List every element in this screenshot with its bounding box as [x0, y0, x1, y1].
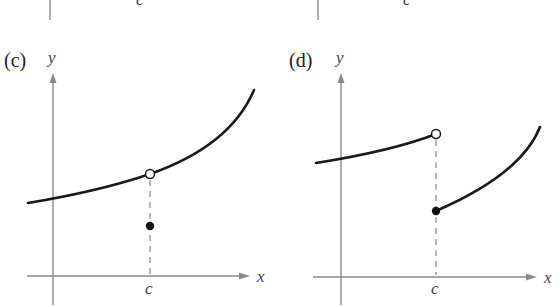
panel-c: (c) y x c — [4, 48, 265, 305]
x-axis-arrow-icon — [526, 274, 537, 281]
y-axis-arrow-icon — [50, 73, 57, 83]
partial-c-label-right: c — [403, 0, 411, 9]
top-partial-panels: c c — [50, 0, 411, 20]
y-axis-label: y — [46, 48, 56, 67]
x-axis-label: x — [256, 267, 265, 286]
left-curve-piece — [316, 134, 436, 163]
filled-point — [432, 207, 440, 215]
filled-point — [146, 222, 154, 230]
c-tick-label: c — [145, 279, 153, 298]
panel-d: (d) y x c — [289, 48, 552, 305]
panel-label: (d) — [289, 49, 312, 72]
y-axis-arrow-icon — [338, 73, 345, 83]
y-axis-label: y — [334, 48, 344, 67]
c-tick-label: c — [431, 279, 439, 298]
function-curve — [28, 90, 254, 203]
open-circle-point — [432, 130, 441, 139]
x-axis-label: x — [543, 268, 552, 287]
right-curve-piece — [436, 127, 540, 211]
panel-label: (c) — [4, 49, 26, 72]
partial-c-label-left: c — [136, 0, 144, 9]
open-circle-point — [146, 170, 155, 179]
limit-discontinuity-figure: c c (c) y x c (d) y x c — [0, 0, 560, 307]
x-axis-arrow-icon — [239, 273, 250, 280]
